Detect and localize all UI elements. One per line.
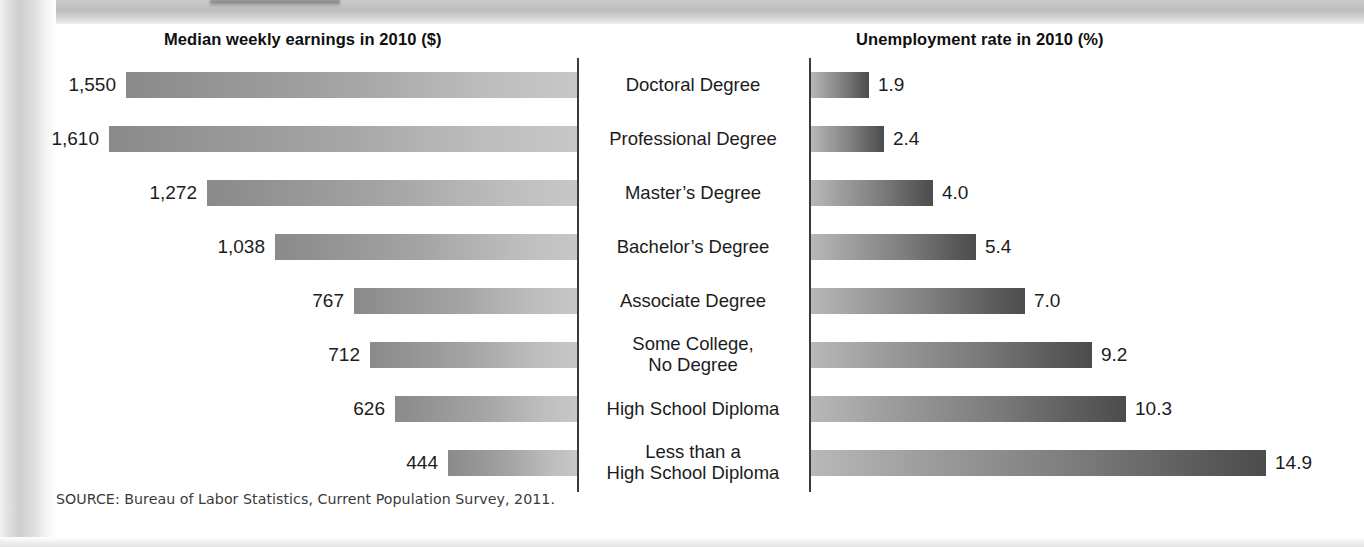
- chart-row: 1,272Master’s Degree4.0: [56, 166, 1364, 220]
- category-label-text: Bachelor’s Degree: [617, 237, 770, 258]
- earnings-bar: [126, 72, 577, 98]
- chart-row: 444Less than aHigh School Diploma14.9: [56, 436, 1364, 490]
- unemployment-bar: [811, 396, 1126, 422]
- unemployment-value-label: 7.0: [1034, 288, 1060, 314]
- category-label-line1: Some College,: [632, 334, 753, 355]
- earnings-bar: [275, 234, 577, 260]
- unemployment-bar: [811, 342, 1092, 368]
- education-pays-chart: Median weekly earnings in 2010 ($) Unemp…: [56, 24, 1364, 537]
- earnings-value-label: 712: [264, 342, 360, 368]
- category-label: Some College,No Degree: [583, 328, 803, 382]
- category-label-text: Less than aHigh School Diploma: [607, 442, 780, 483]
- unemployment-value-label: 4.0: [942, 180, 968, 206]
- category-label-line1: High School Diploma: [607, 399, 780, 420]
- earnings-value-label: 626: [289, 396, 385, 422]
- category-label-line1: Less than a: [607, 442, 780, 463]
- category-label: Doctoral Degree: [583, 58, 803, 112]
- earnings-bar: [109, 126, 577, 152]
- earnings-value-label: 1,038: [169, 234, 265, 260]
- category-label: Professional Degree: [583, 112, 803, 166]
- unemployment-bar: [811, 126, 884, 152]
- unemployment-bar: [811, 288, 1025, 314]
- earnings-bar: [370, 342, 577, 368]
- category-label-text: Associate Degree: [620, 291, 766, 312]
- chart-row: 1,550Doctoral Degree1.9: [56, 58, 1364, 112]
- chart-row: 626High School Diploma10.3: [56, 382, 1364, 436]
- earnings-value-label: 1,610: [3, 126, 99, 152]
- chart-row: 712Some College,No Degree9.2: [56, 328, 1364, 382]
- category-label-line2: High School Diploma: [607, 463, 780, 484]
- category-label-text: Master’s Degree: [625, 183, 761, 204]
- unemployment-value-label: 9.2: [1101, 342, 1127, 368]
- page-bottom-scan-band: [0, 537, 1364, 547]
- chart-row: 767Associate Degree7.0: [56, 274, 1364, 328]
- earnings-bar: [354, 288, 577, 314]
- category-label-text: Some College,No Degree: [632, 334, 753, 375]
- chart-rows: 1,550Doctoral Degree1.91,610Professional…: [56, 58, 1364, 498]
- earnings-value-label: 1,272: [101, 180, 197, 206]
- unemployment-bar: [811, 234, 976, 260]
- category-label-line1: Professional Degree: [609, 129, 777, 150]
- earnings-value-label: 1,550: [20, 72, 116, 98]
- right-panel-title: Unemployment rate in 2010 (%): [856, 30, 1104, 49]
- category-label-text: Doctoral Degree: [626, 75, 761, 96]
- chart-row: 1,610Professional Degree2.4: [56, 112, 1364, 166]
- category-label-text: Professional Degree: [609, 129, 777, 150]
- earnings-bar: [448, 450, 577, 476]
- unemployment-value-label: 10.3: [1135, 396, 1172, 422]
- category-label-line2: No Degree: [632, 355, 753, 376]
- category-label: Master’s Degree: [583, 166, 803, 220]
- category-label-line1: Bachelor’s Degree: [617, 237, 770, 258]
- unemployment-value-label: 2.4: [893, 126, 919, 152]
- earnings-bar: [207, 180, 577, 206]
- category-label-line1: Master’s Degree: [625, 183, 761, 204]
- category-label: Bachelor’s Degree: [583, 220, 803, 274]
- earnings-value-label: 444: [342, 450, 438, 476]
- category-label: Less than aHigh School Diploma: [583, 436, 803, 490]
- unemployment-value-label: 1.9: [878, 72, 904, 98]
- unemployment-bar: [811, 72, 869, 98]
- category-label-line1: Associate Degree: [620, 291, 766, 312]
- category-label-line1: Doctoral Degree: [626, 75, 761, 96]
- category-label-text: High School Diploma: [607, 399, 780, 420]
- earnings-value-label: 767: [248, 288, 344, 314]
- unemployment-value-label: 14.9: [1275, 450, 1312, 476]
- page-top-scan-band: [0, 0, 1364, 24]
- left-panel-title: Median weekly earnings in 2010 ($): [164, 30, 442, 49]
- scanned-page: Median weekly earnings in 2010 ($) Unemp…: [0, 0, 1364, 547]
- category-label: Associate Degree: [583, 274, 803, 328]
- source-note: SOURCE: Bureau of Labor Statistics, Curr…: [56, 491, 555, 507]
- earnings-bar: [395, 396, 577, 422]
- cropped-heading-ink: [210, 0, 340, 7]
- chart-row: 1,038Bachelor’s Degree5.4: [56, 220, 1364, 274]
- category-label: High School Diploma: [583, 382, 803, 436]
- unemployment-bar: [811, 180, 933, 206]
- unemployment-value-label: 5.4: [985, 234, 1011, 260]
- unemployment-bar: [811, 450, 1266, 476]
